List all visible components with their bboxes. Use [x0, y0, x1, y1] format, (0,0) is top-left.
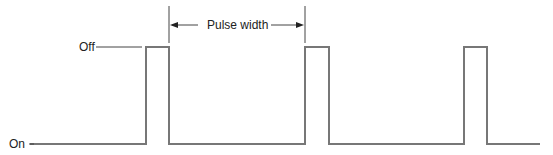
right-arrowhead-icon — [296, 22, 304, 28]
left-arrowhead-icon — [170, 22, 178, 28]
pulse-waveform-diagram — [0, 0, 553, 155]
on-level-label: On — [9, 137, 25, 151]
waveform-line — [30, 47, 540, 144]
pulse-width-label: Pulse width — [207, 18, 268, 32]
off-level-label: Off — [79, 40, 95, 54]
